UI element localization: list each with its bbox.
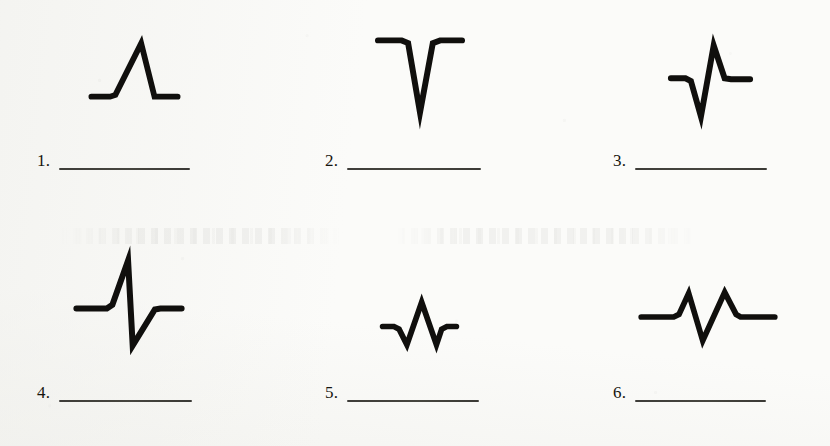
answer-blank-5[interactable] [347, 400, 479, 402]
waveform-3-trace [671, 45, 750, 116]
answer-blank-4[interactable] [59, 400, 192, 402]
answer-row-6: 6. [613, 384, 766, 402]
waveform-2 [374, 34, 466, 119]
answer-row-3: 3. [613, 152, 767, 170]
answer-blank-6[interactable] [635, 400, 766, 402]
answer-row-2: 2. [325, 152, 481, 170]
worksheet-page: 1. 2. 3. 4. 5. 6. [0, 0, 830, 446]
item-number-1: 1. [37, 152, 50, 170]
waveform-4 [72, 255, 186, 351]
item-number-6: 6. [613, 384, 626, 402]
waveform-3 [667, 40, 754, 122]
answer-blank-3[interactable] [635, 168, 767, 170]
item-number-2: 2. [325, 152, 338, 170]
answer-blank-1[interactable] [59, 168, 190, 170]
item-number-5: 5. [325, 384, 338, 402]
waveform-2-trace [378, 40, 462, 112]
waveform-6 [632, 288, 784, 346]
waveform-6-trace [641, 292, 775, 340]
answer-row-1: 1. [37, 152, 190, 170]
waveform-1-trace [91, 43, 177, 96]
answer-blank-2[interactable] [347, 168, 481, 170]
bleed-through-text [60, 228, 700, 244]
item-number-3: 3. [613, 152, 626, 170]
waveform-4-trace [76, 261, 181, 346]
waveform-5 [377, 297, 462, 350]
waveform-1 [86, 38, 183, 102]
item-number-4: 4. [37, 384, 50, 402]
answer-row-5: 5. [325, 384, 479, 402]
answer-row-4: 4. [37, 384, 192, 402]
waveform-5-trace [383, 302, 457, 345]
